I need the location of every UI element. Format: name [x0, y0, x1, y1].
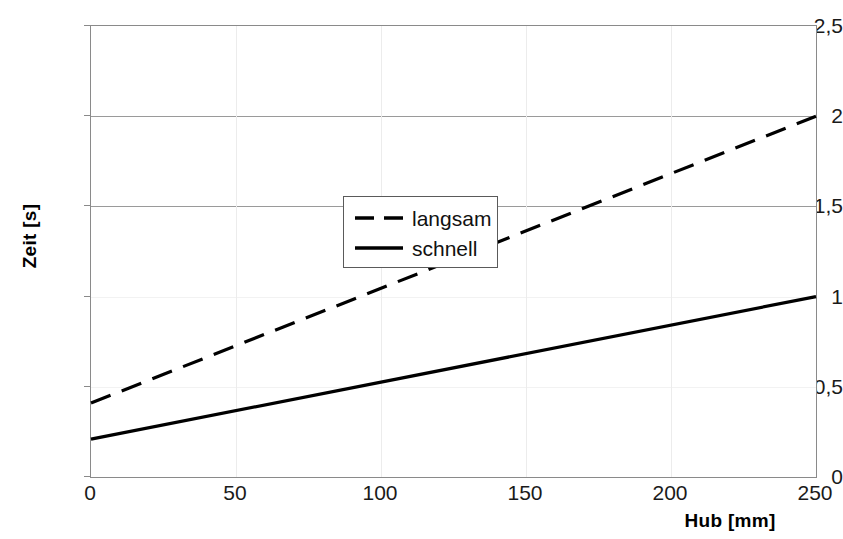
chart-figure: 2,5 2 1,5 1 0,5 0 0 50 100 150 200 250 Z…	[0, 0, 843, 539]
legend-label: langsam	[412, 208, 491, 229]
y-axis-title: Zeit [s]	[19, 176, 41, 296]
x-tick-label: 50	[195, 482, 275, 503]
x-tick-label: 0	[50, 482, 130, 503]
legend-label: schnell	[412, 238, 477, 259]
x-tick-label: 100	[340, 482, 420, 503]
legend-swatch-solid-icon	[354, 241, 404, 255]
plot-area: langsam schnell	[90, 25, 817, 478]
x-tick-label: 150	[485, 482, 565, 503]
solid-line-icon	[354, 241, 404, 255]
dashed-line-icon	[354, 211, 404, 225]
legend-item-schnell: schnell	[344, 233, 497, 263]
x-tick-label: 250	[775, 482, 843, 503]
series-line-schnell	[91, 297, 816, 440]
legend: langsam schnell	[343, 196, 498, 268]
legend-swatch-dashed-icon	[354, 211, 404, 225]
x-tick-label: 200	[630, 482, 710, 503]
x-axis-title: Hub [mm]	[640, 510, 820, 532]
legend-item-langsam: langsam	[344, 203, 497, 233]
